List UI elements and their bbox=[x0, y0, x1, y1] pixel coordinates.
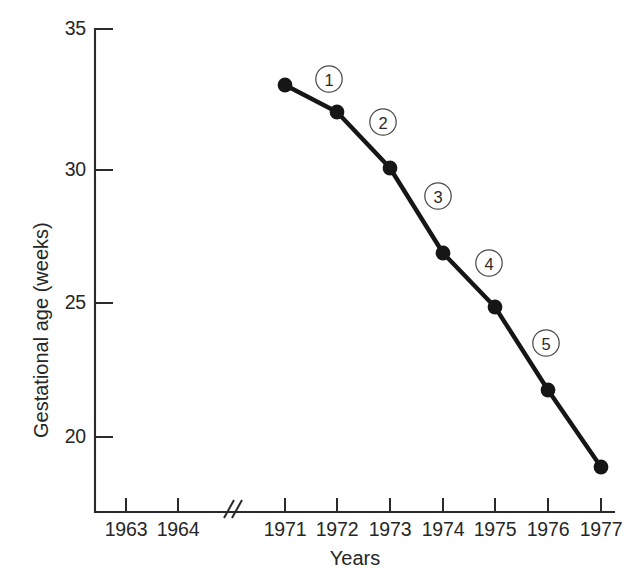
segment-annotations: 1 2 3 4 5 bbox=[316, 66, 559, 356]
segment-annotation-4: 4 bbox=[476, 250, 502, 276]
segment-annotation-2: 2 bbox=[370, 109, 396, 135]
data-point-1977 bbox=[594, 460, 609, 475]
y-axis-title: Gestational age (weeks) bbox=[30, 222, 53, 438]
segment-annotation-1: 1 bbox=[316, 66, 342, 92]
segment-annotation-1-label: 1 bbox=[324, 71, 333, 89]
segment-annotation-5-label: 5 bbox=[541, 335, 550, 353]
segment-annotation-4-label: 4 bbox=[484, 255, 493, 273]
segment-annotation-3-label: 3 bbox=[433, 188, 442, 206]
data-point-1971 bbox=[278, 78, 293, 93]
segment-annotation-5: 5 bbox=[533, 330, 559, 356]
data-point-1975 bbox=[488, 300, 503, 315]
x-axis-ticks bbox=[126, 498, 601, 512]
chart-plot-area: 1 2 3 4 5 bbox=[0, 0, 638, 577]
x-axis-break-icon bbox=[224, 500, 242, 518]
y-axis-ticks bbox=[95, 29, 113, 437]
y-tick-label-35: 35 bbox=[40, 17, 86, 40]
x-tick-label-1964: 1964 bbox=[140, 518, 216, 541]
data-point-1972 bbox=[330, 105, 345, 120]
data-point-1973 bbox=[383, 161, 398, 176]
y-tick-label-30: 30 bbox=[40, 158, 86, 181]
chart-figure: 1 2 3 4 5 35 30 25 20 1963 1964 1971 bbox=[0, 0, 638, 577]
x-axis-title: Years bbox=[305, 547, 405, 570]
series-line-gestational-age bbox=[285, 85, 601, 467]
data-point-1976 bbox=[541, 383, 556, 398]
data-point-1974 bbox=[436, 246, 451, 261]
segment-annotation-2-label: 2 bbox=[378, 114, 387, 132]
series-markers bbox=[278, 78, 609, 475]
segment-annotation-3: 3 bbox=[425, 183, 451, 209]
x-tick-label-1977: 1977 bbox=[563, 518, 638, 541]
